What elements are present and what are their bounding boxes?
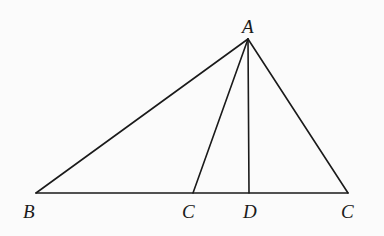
label-vertex-a: A <box>240 16 254 37</box>
segment-ab <box>36 39 248 193</box>
diagram-svg: A B C D C <box>0 0 384 236</box>
segment-ac-inner <box>193 39 248 193</box>
label-point-c-inner: C <box>182 201 195 222</box>
segment-ad-altitude <box>248 39 249 193</box>
geometry-diagram: A B C D C <box>0 0 384 236</box>
label-vertex-b: B <box>23 201 35 222</box>
segment-ac-outer <box>248 39 348 193</box>
label-point-d: D <box>242 201 257 222</box>
label-point-c-outer: C <box>341 201 354 222</box>
